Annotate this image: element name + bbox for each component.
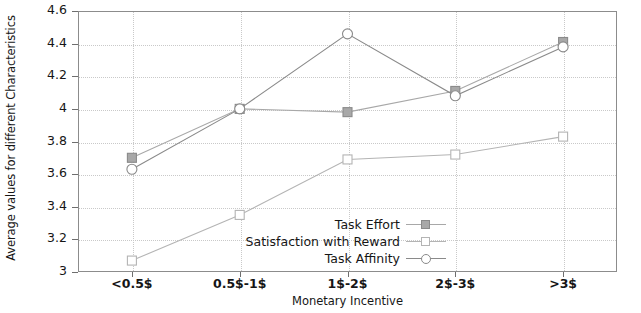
series-task-affinity bbox=[127, 29, 568, 174]
x-axis-tick-label: <0.5$ bbox=[72, 276, 192, 292]
legend-item-marker bbox=[406, 252, 446, 266]
legend-item-label: Task Effort bbox=[335, 217, 406, 232]
legend-item[interactable]: Satisfaction with Reward bbox=[236, 233, 446, 250]
x-axis-title: Monetary Incentive bbox=[78, 294, 617, 308]
y-axis-tick-label: 4.6 bbox=[7, 4, 67, 16]
data-point-marker bbox=[343, 155, 352, 164]
x-axis-tick-mark bbox=[563, 272, 564, 277]
data-point-marker bbox=[127, 256, 136, 265]
x-axis-tick-label: >3$ bbox=[503, 276, 623, 292]
data-point-marker bbox=[343, 29, 353, 39]
y-axis-tick-label: 4 bbox=[7, 102, 67, 114]
data-point-marker bbox=[127, 153, 136, 162]
y-axis-tick-label: 3 bbox=[7, 265, 67, 277]
legend-item-marker bbox=[406, 235, 446, 249]
legend-item-label: Task Affinity bbox=[325, 251, 406, 266]
y-axis-tick-label: 3.4 bbox=[7, 200, 67, 212]
y-axis-tick-label: 3.8 bbox=[7, 135, 67, 147]
legend-item[interactable]: Task Effort bbox=[236, 216, 446, 233]
data-point-marker bbox=[558, 42, 568, 52]
line-chart-figure: Average values for different Characteris… bbox=[0, 0, 641, 313]
y-axis-tick-label: 4.2 bbox=[7, 69, 67, 81]
x-axis-tick-label: 2$-3$ bbox=[395, 276, 515, 292]
y-axis-tick-mark bbox=[72, 272, 78, 273]
x-axis-tick-label: 1$-2$ bbox=[288, 276, 408, 292]
data-point-marker bbox=[450, 91, 460, 101]
x-axis-tick-mark bbox=[132, 272, 133, 277]
y-axis-tick-label: 3.6 bbox=[7, 167, 67, 179]
x-axis-tick-mark bbox=[240, 272, 241, 277]
data-point-marker bbox=[235, 104, 245, 114]
data-point-marker bbox=[343, 108, 352, 117]
series-task-effort bbox=[127, 37, 567, 162]
legend-open-square-icon bbox=[421, 237, 430, 246]
legend-item[interactable]: Task Affinity bbox=[236, 250, 446, 267]
legend-item-label: Satisfaction with Reward bbox=[246, 234, 406, 249]
data-point-marker bbox=[451, 150, 460, 159]
y-axis-tick-label: 3.2 bbox=[7, 232, 67, 244]
legend-open-circle-icon bbox=[421, 254, 431, 264]
series-line bbox=[132, 34, 563, 169]
series-line bbox=[132, 42, 563, 158]
x-axis-tick-label: 0.5$-1$ bbox=[180, 276, 300, 292]
x-axis-tick-mark bbox=[348, 272, 349, 277]
chart-legend: Task EffortSatisfaction with RewardTask … bbox=[236, 216, 446, 267]
legend-filled-square-icon bbox=[421, 220, 430, 229]
legend-item-marker bbox=[406, 218, 446, 232]
data-point-marker bbox=[559, 132, 568, 141]
data-point-marker bbox=[127, 164, 137, 174]
y-axis-tick-label: 4.4 bbox=[7, 37, 67, 49]
x-axis-tick-mark bbox=[455, 272, 456, 277]
